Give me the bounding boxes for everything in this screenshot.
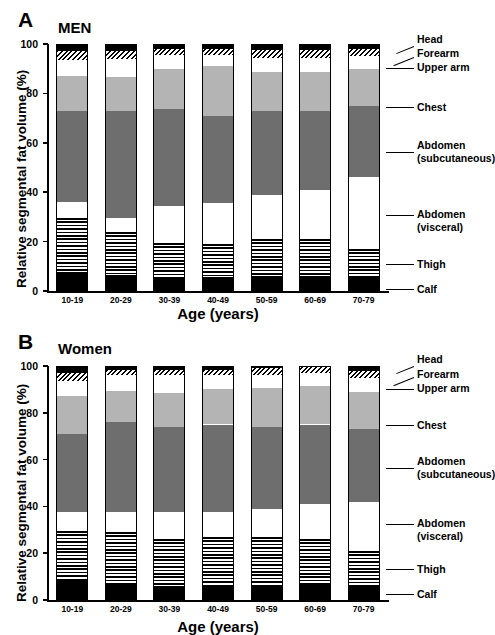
segment-forearm (56, 51, 88, 60)
y-axis-tick (43, 552, 48, 554)
segment-calf (153, 586, 185, 600)
segment-thigh (299, 239, 331, 277)
x-axis-tick-label: 30-39 (145, 604, 193, 614)
segment-abdomen-subcutaneous (202, 425, 234, 513)
segment-chest (202, 389, 234, 424)
bar-20-29[interactable] (105, 44, 137, 291)
y-axis-tick-label: 60 (12, 454, 38, 466)
segment-head (348, 366, 380, 371)
panel-a-yaxis-label: Relative segmental fat volume (%) (14, 70, 29, 288)
bar-60-69[interactable] (299, 366, 331, 600)
y-axis-tick-label: 100 (12, 360, 38, 372)
segment-forearm (56, 373, 88, 381)
y-axis-tick-label: 0 (12, 594, 38, 606)
segment-upper-arm (202, 55, 234, 66)
bar-10-19[interactable] (56, 366, 88, 600)
x-axis-tick-label: 70-79 (340, 604, 388, 614)
segment-abdomen-visceral (299, 190, 331, 239)
y-axis-tick-label: 40 (12, 500, 38, 512)
segment-abdomen-subcutaneous (153, 427, 185, 512)
segment-forearm (251, 50, 283, 57)
segment-calf (251, 277, 283, 291)
x-axis-line (47, 600, 389, 602)
bar-20-29[interactable] (105, 366, 137, 600)
segment-thigh (56, 531, 88, 580)
segment-chest (348, 392, 380, 429)
y-axis-tick-label: 100 (12, 38, 38, 50)
bar-30-39[interactable] (153, 366, 185, 600)
segment-thigh (105, 532, 137, 585)
x-axis-tick-label: 50-59 (243, 295, 291, 305)
x-axis-tick-label: 40-49 (194, 604, 242, 614)
segment-upper-arm (153, 55, 185, 69)
bar-40-49[interactable] (202, 44, 234, 291)
segment-abdomen-subcutaneous (56, 434, 88, 512)
panel-a-xaxis-label: Age (years) (48, 305, 388, 322)
y-axis-tick (43, 506, 48, 508)
segment-forearm (299, 50, 331, 57)
segment-abdomen-visceral (299, 504, 331, 539)
bar-10-19[interactable] (56, 44, 88, 291)
segment-abdomen-subcutaneous (348, 106, 380, 178)
segment-chest (299, 72, 331, 110)
x-axis-tick-label: 10-19 (48, 604, 96, 614)
segment-upper-arm (348, 56, 380, 68)
segment-head (251, 366, 283, 368)
bar-70-79[interactable] (348, 44, 380, 291)
panel-b-plot-area: 02040608010010-1920-2930-3940-4950-5960-… (48, 366, 388, 600)
segment-thigh (348, 249, 380, 276)
y-axis-tick-label: 0 (12, 285, 38, 297)
y-axis-tick (43, 241, 48, 243)
x-axis-tick-label: 60-69 (291, 295, 339, 305)
bar-50-59[interactable] (251, 366, 283, 600)
segment-chest (153, 393, 185, 427)
panel-a-title: MEN (58, 19, 91, 36)
segment-chest (56, 76, 88, 111)
segment-thigh (105, 232, 137, 275)
bar-40-49[interactable] (202, 366, 234, 600)
segment-calf (299, 585, 331, 600)
segment-chest (348, 69, 380, 106)
segment-abdomen-subcutaneous (105, 422, 137, 512)
segment-head (56, 44, 88, 51)
x-axis-tick-label: 20-29 (97, 295, 145, 305)
segment-calf (56, 274, 88, 291)
segment-calf (202, 277, 234, 291)
segment-abdomen-subcutaneous (56, 111, 88, 202)
panel-b-women: B Women Relative segmental fat volume (%… (0, 322, 493, 635)
segment-calf (153, 279, 185, 291)
segment-abdomen-visceral (348, 502, 380, 551)
segment-head (202, 366, 234, 370)
segment-abdomen-subcutaneous (251, 427, 283, 509)
segment-chest (251, 72, 283, 110)
segment-upper-arm (299, 58, 331, 73)
segment-upper-arm (56, 60, 88, 76)
segment-abdomen-visceral (153, 206, 185, 243)
segment-upper-arm (153, 375, 185, 393)
bar-60-69[interactable] (299, 44, 331, 291)
bar-70-79[interactable] (348, 366, 380, 600)
segment-calf (202, 586, 234, 600)
bar-30-39[interactable] (153, 44, 185, 291)
y-axis-line (47, 44, 49, 291)
segment-calf (105, 275, 137, 291)
segment-forearm (105, 51, 137, 58)
segment-abdomen-subcutaneous (348, 429, 380, 502)
segment-head (56, 366, 88, 373)
y-axis-tick (43, 412, 48, 414)
segment-abdomen-visceral (105, 218, 137, 232)
segment-thigh (299, 539, 331, 585)
segment-abdomen-visceral (202, 512, 234, 537)
panel-b-letter: B (18, 330, 33, 354)
y-axis-tick (43, 290, 48, 292)
bar-50-59[interactable] (251, 44, 283, 291)
y-axis-tick-label: 20 (12, 547, 38, 559)
segment-forearm (153, 370, 185, 376)
segment-upper-arm (348, 378, 380, 392)
y-axis-line (47, 366, 49, 600)
segment-abdomen-visceral (348, 177, 380, 249)
segment-abdomen-visceral (56, 512, 88, 531)
segment-thigh (153, 243, 185, 279)
panel-a-plot-area: 02040608010010-1920-2930-3940-4950-5960-… (48, 44, 388, 291)
